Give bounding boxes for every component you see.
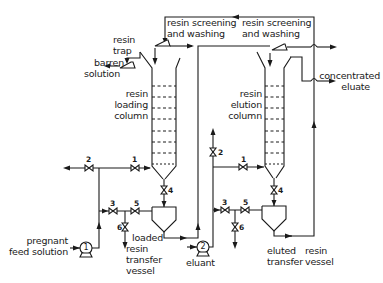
label-line: trap bbox=[113, 45, 135, 56]
label-line: eluted bbox=[267, 245, 303, 256]
label-resin-vessel: resin vessel bbox=[305, 245, 334, 267]
label-line: pregnant bbox=[8, 235, 68, 246]
label-loaded-vessel: loaded resin transfer vessel bbox=[126, 232, 163, 276]
label-line: resin bbox=[108, 88, 148, 99]
valve-5-elution-label: 5 bbox=[243, 199, 248, 207]
label-line: feed solution bbox=[8, 246, 68, 257]
label-line: solution bbox=[84, 68, 124, 79]
valve-3-loading-label: 3 bbox=[110, 200, 115, 208]
label-line: vessel bbox=[126, 265, 163, 276]
top-return-line bbox=[163, 15, 317, 237]
valve-1-loading-label: 1 bbox=[132, 156, 137, 164]
valve-1-elution-label: 1 bbox=[241, 156, 246, 164]
middle-transfer-line bbox=[164, 46, 270, 241]
label-eluted-transfer: eluted transfer bbox=[267, 245, 303, 267]
label-line: column bbox=[222, 110, 262, 121]
label-line: loaded bbox=[126, 232, 163, 243]
pump-2-number: 2 bbox=[199, 243, 207, 251]
label-line: and washing bbox=[167, 28, 236, 39]
loading-screen bbox=[153, 40, 195, 65]
elution-column bbox=[257, 52, 291, 206]
label-loading-column: resin loading column bbox=[108, 88, 148, 121]
valve-4-elution-label: 4 bbox=[278, 187, 283, 195]
label-barren-solution: barren solution bbox=[84, 57, 124, 79]
valve-6-elution-label: 6 bbox=[239, 224, 244, 232]
label-line: elution bbox=[222, 99, 262, 110]
label-line: resin screening bbox=[242, 17, 311, 28]
label-line: transfer bbox=[126, 254, 163, 265]
label-line: concentrated bbox=[316, 70, 380, 81]
valve-2-elution-label: 2 bbox=[218, 149, 223, 157]
label-line: barren bbox=[84, 57, 124, 68]
label-line: vessel bbox=[305, 256, 334, 267]
label-line: and washing bbox=[242, 28, 311, 39]
loading-column bbox=[140, 52, 180, 207]
label-line: transfer bbox=[267, 256, 303, 267]
label-resin-screening-2: resin screening and washing bbox=[242, 17, 311, 39]
valve-3-elution-label: 3 bbox=[222, 199, 227, 207]
label-eluant: eluant bbox=[186, 257, 215, 268]
label-pregnant-feed: pregnant feed solution bbox=[8, 235, 68, 257]
label-line: resin bbox=[126, 243, 163, 254]
label-resin-trap: resin trap bbox=[113, 34, 135, 56]
label-line: loading bbox=[108, 99, 148, 110]
label-line: column bbox=[108, 110, 148, 121]
valve-5-loading-label: 5 bbox=[134, 200, 139, 208]
eluted-transfer-vessel bbox=[262, 200, 292, 239]
label-line: resin screening bbox=[167, 17, 236, 28]
label-line: resin bbox=[305, 245, 334, 256]
valve-2-loading-label: 2 bbox=[86, 156, 91, 164]
elution-eluant-piping bbox=[187, 128, 277, 250]
valve-4-loading-label: 4 bbox=[168, 187, 173, 195]
pump-1-number: 1 bbox=[82, 244, 90, 252]
label-elution-column: resin elution column bbox=[222, 88, 262, 121]
label-line: eluate bbox=[316, 81, 380, 92]
label-line: resin bbox=[113, 34, 135, 45]
label-resin-screening-1: resin screening and washing bbox=[167, 17, 236, 39]
label-line: resin bbox=[222, 88, 262, 99]
loaded-transfer-vessel bbox=[152, 201, 176, 232]
label-concentrated-eluate: concentrated eluate bbox=[316, 70, 380, 92]
valve-6-loading-label: 6 bbox=[117, 224, 122, 232]
